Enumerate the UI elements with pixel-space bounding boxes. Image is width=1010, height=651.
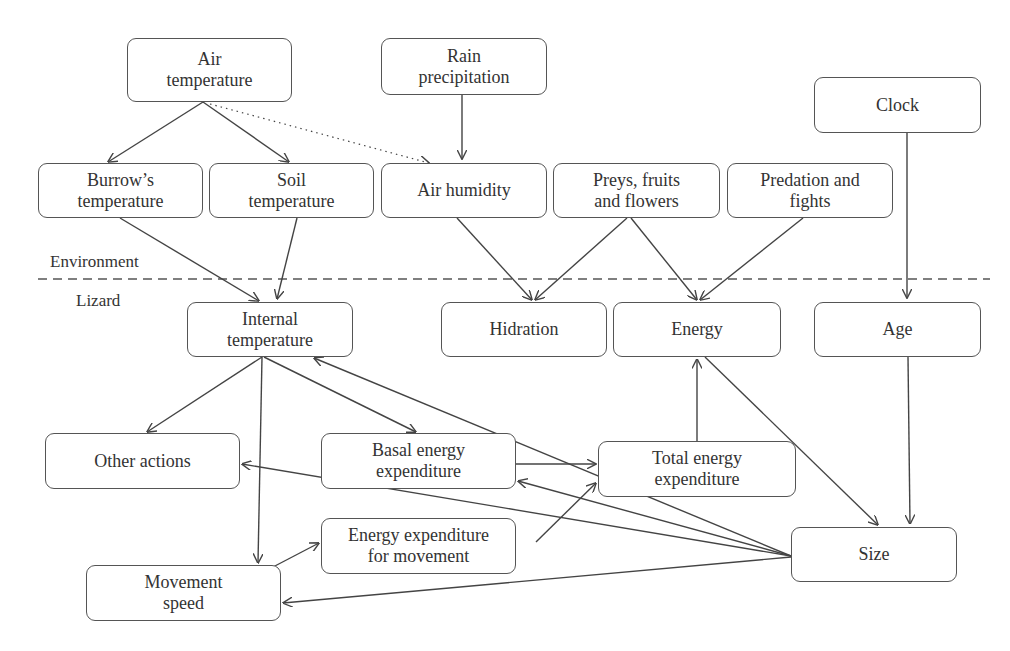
node-label: Hidration [490, 319, 559, 340]
edge-air-humidity-to-hidration [457, 218, 532, 300]
edge-movement-speed-to-energy-expenditure-movement [273, 543, 319, 567]
edge-burrows-temperature-to-internal-temperature [120, 218, 259, 301]
edge-air-temperature-to-air-humidity [210, 104, 429, 163]
node-label: Movement speed [145, 572, 223, 614]
edge-preys-fruits-flowers-to-energy [631, 218, 697, 300]
node-movement-speed: Movement speed [86, 565, 281, 621]
node-label: Energy [671, 319, 723, 340]
edge-energy-expenditure-movement-to-total-energy-expenditure [536, 483, 596, 542]
node-label: Soil temperature [249, 170, 335, 212]
node-label: Rain precipitation [419, 46, 510, 88]
node-clock: Clock [814, 77, 981, 133]
node-label: Total energy expenditure [652, 448, 742, 490]
node-soil-temperature: Soil temperature [209, 163, 374, 218]
node-total-energy-expenditure: Total energy expenditure [598, 441, 796, 497]
node-label: Predation and fights [760, 170, 859, 212]
node-label: Burrow’s temperature [78, 170, 164, 212]
edge-age-to-size [908, 357, 910, 524]
node-burrows-temperature: Burrow’s temperature [38, 163, 203, 218]
node-label: Internal temperature [227, 309, 313, 351]
node-rain-precipitation: Rain precipitation [381, 38, 547, 95]
node-preys-fruits-flowers: Preys, fruits and flowers [553, 163, 720, 218]
node-label: Basal energy expenditure [372, 440, 465, 482]
environment-zone-label: Environment [50, 252, 139, 272]
node-label: Age [883, 319, 913, 340]
diagram-canvas: Environment Lizard Air temperatureRain p… [0, 0, 1010, 651]
node-age: Age [814, 302, 981, 357]
edge-air-temperature-to-soil-temperature [203, 102, 289, 162]
node-label: Preys, fruits and flowers [593, 170, 680, 212]
lizard-zone-label: Lizard [76, 291, 120, 311]
node-internal-temperature: Internal temperature [187, 302, 353, 357]
node-air-humidity: Air humidity [381, 163, 547, 218]
edge-soil-temperature-to-internal-temperature [277, 218, 297, 299]
node-other-actions: Other actions [45, 433, 240, 489]
node-label: Size [859, 544, 890, 565]
node-energy: Energy [613, 302, 781, 357]
node-energy-expenditure-movement: Energy expenditure for movement [321, 518, 516, 574]
node-label: Other actions [94, 451, 190, 472]
edge-internal-temperature-to-movement-speed [258, 357, 262, 563]
edge-preys-fruits-flowers-to-hidration [535, 218, 627, 300]
node-hidration: Hidration [441, 302, 607, 357]
node-size: Size [791, 527, 957, 582]
node-label: Energy expenditure for movement [348, 525, 489, 567]
edge-internal-temperature-to-other-actions [147, 357, 262, 432]
edge-predation-fights-to-energy [700, 218, 803, 300]
node-label: Clock [876, 95, 919, 116]
edge-air-temperature-to-burrows-temperature [108, 102, 203, 162]
node-label: Air temperature [167, 49, 253, 91]
node-basal-energy-expenditure: Basal energy expenditure [321, 433, 516, 489]
node-predation-fights: Predation and fights [727, 163, 893, 218]
node-label: Air humidity [417, 180, 511, 201]
node-air-temperature: Air temperature [127, 38, 292, 102]
